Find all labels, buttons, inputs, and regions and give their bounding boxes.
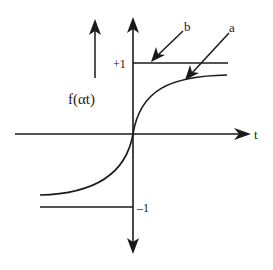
y-axis-label: f(αt) <box>68 91 95 108</box>
sigmoid-diagram: f(αt) t +1 –1 a b <box>0 0 273 270</box>
label-b: b <box>184 19 191 34</box>
label-a: a <box>229 20 235 35</box>
pointer-arrow-b <box>151 31 183 62</box>
tick-plus-one: +1 <box>113 57 126 71</box>
x-axis-label: t <box>254 127 258 142</box>
pointer-arrow-icon <box>151 47 165 62</box>
y-label-arrow <box>89 19 101 78</box>
tick-minus-one: –1 <box>136 201 149 215</box>
pointer-arrow-a <box>185 33 229 80</box>
diagram: f(αt) t +1 –1 a b <box>0 0 273 270</box>
